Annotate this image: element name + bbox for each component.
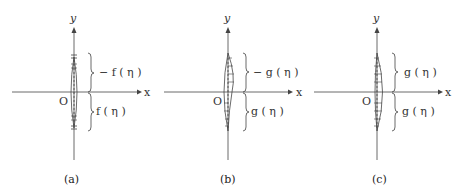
panel-b-drawing: [150, 0, 302, 195]
lower-function-label: f ( η ): [96, 106, 126, 117]
caption-a: (a): [64, 174, 79, 185]
origin-label: O: [213, 96, 222, 107]
y-axis-label: y: [373, 13, 379, 24]
upper-function-label: − g ( η ): [253, 67, 298, 78]
x-axis-arrow-icon: [438, 90, 443, 95]
upper-brace-icon: [243, 53, 249, 92]
panel-a: y x O − f ( η ) f ( η ) (a): [0, 0, 152, 195]
y-axis-label: y: [70, 13, 76, 24]
y-axis-label: y: [224, 13, 230, 24]
upper-function-label: − f ( η ): [99, 67, 141, 78]
panel-b: y x O − g ( η ) g ( η ) (b): [150, 0, 302, 195]
caption-b: (b): [220, 174, 236, 185]
lower-function-label: g ( η ): [402, 106, 435, 117]
lower-function-label: g ( η ): [251, 106, 284, 117]
y-axis-arrow-icon: [375, 27, 380, 33]
upper-brace-icon: [88, 53, 94, 92]
origin-label: O: [362, 96, 371, 107]
y-axis-arrow-icon: [72, 27, 77, 33]
upper-function-label: g ( η ): [404, 67, 437, 78]
y-axis-arrow-icon: [226, 27, 231, 33]
panel-c: y x O g ( η ) g ( η ) (c): [300, 0, 452, 195]
x-axis-arrow-icon: [137, 90, 142, 95]
upper-brace-icon: [392, 53, 398, 92]
origin-label: O: [59, 96, 68, 107]
x-axis-arrow-icon: [288, 90, 293, 95]
lower-brace-icon: [88, 93, 94, 131]
x-axis-label: x: [445, 87, 451, 98]
lower-brace-icon: [392, 93, 398, 131]
panel-a-drawing: [0, 0, 152, 195]
panel-c-drawing: [300, 0, 457, 195]
lower-brace-icon: [243, 93, 249, 131]
caption-c: (c): [372, 174, 387, 185]
